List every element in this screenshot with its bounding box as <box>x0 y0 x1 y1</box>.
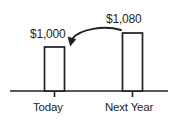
growth-arrow-head <box>68 37 77 47</box>
bar-chart: $1,000 $1,080 Today Next Year <box>0 0 177 125</box>
bar-value-label-next-year: $1,080 <box>106 12 142 26</box>
bar-value-label-today: $1,000 <box>30 27 66 41</box>
category-label-next-year: Next Year <box>105 101 153 113</box>
growth-arrow-curve <box>73 28 122 39</box>
bar-today <box>45 47 65 91</box>
category-label-today: Today <box>33 101 63 113</box>
bar-next-year <box>123 33 143 91</box>
